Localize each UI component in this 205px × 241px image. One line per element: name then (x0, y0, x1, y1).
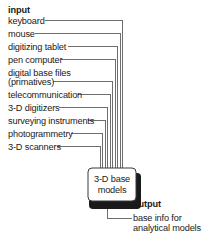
input-label-mouse: mouse (8, 29, 35, 39)
input-label-photogrammetry: photogrammetry (8, 129, 73, 139)
process-box-label-line2: models (88, 185, 136, 196)
input-label-digital-base-files-line2: (primatives) (8, 77, 54, 87)
input-label-telecommunication: telecommunication (8, 90, 82, 100)
input-label-surveying-instruments: surveying instruments (8, 116, 94, 126)
output-label-line1: base info for (133, 213, 182, 224)
process-box-label-line1: 3-D base (88, 174, 136, 185)
input-label-keyboard: keyboard (8, 16, 45, 26)
input-output-flow-diagram: input keyboard mouse digitizing tablet p… (0, 0, 205, 241)
input-label-3d-digitizers: 3-D digitizers (8, 103, 60, 113)
output-heading: output (133, 199, 161, 209)
output-label-line2: analytical models (133, 223, 201, 234)
input-label-pen-computer: pen computer (8, 55, 62, 65)
input-label-3d-scanners: 3-D scanners (8, 142, 61, 152)
input-heading: input (8, 5, 30, 15)
input-label-digitizing-tablet: digitizing tablet (8, 42, 66, 52)
